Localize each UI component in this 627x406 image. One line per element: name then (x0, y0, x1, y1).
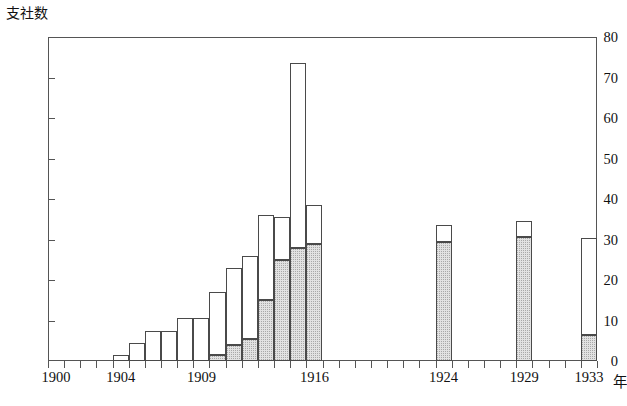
y-tick-mark (48, 321, 55, 322)
x-tick-mark (387, 361, 388, 368)
x-tick-mark (371, 361, 372, 368)
x-axis-unit-label: 年 (613, 370, 627, 391)
x-tick-mark (129, 361, 130, 368)
bar-segment-open (436, 225, 452, 241)
bar-1912 (242, 37, 258, 361)
bar-segment-shaded (290, 248, 306, 361)
bar-1916 (306, 37, 322, 361)
x-tick-mark (468, 361, 469, 368)
x-tick-mark (436, 361, 437, 368)
y-tick-mark (48, 240, 55, 241)
x-tick-mark (419, 361, 420, 368)
x-tick-mark (242, 361, 243, 368)
bar-segment-shaded (226, 345, 242, 361)
bar-segment-open (193, 318, 209, 361)
x-tick-mark (113, 361, 114, 368)
x-tick-mark (452, 361, 453, 368)
x-tick-mark (258, 361, 259, 368)
x-tick-mark (403, 361, 404, 368)
bar-segment-open (581, 238, 597, 335)
y-tick-mark (48, 280, 55, 281)
x-tick-mark (549, 361, 550, 368)
bar-1905 (129, 37, 145, 361)
bar-segment-shaded (242, 339, 258, 361)
bar-segment-open (209, 292, 225, 355)
x-tick-label: 1929 (510, 370, 539, 385)
x-tick-mark (339, 361, 340, 368)
bar-1911 (226, 37, 242, 361)
x-tick-mark (64, 361, 65, 368)
bar-1929 (516, 37, 532, 361)
x-tick-mark (145, 361, 146, 368)
bar-segment-open (306, 205, 322, 243)
x-tick-mark (177, 361, 178, 368)
bar-segment-shaded (209, 355, 225, 361)
bar-segment-shaded (274, 260, 290, 361)
x-tick-mark (80, 361, 81, 368)
bar-1933 (581, 37, 597, 361)
bar-segment-open (290, 63, 306, 247)
bar-segment-shaded (436, 242, 452, 361)
bar-segment-open (258, 215, 274, 300)
x-tick-mark (355, 361, 356, 368)
bar-1909 (193, 37, 209, 361)
bar-segment-open (177, 318, 193, 361)
bar-segment-open (226, 268, 242, 345)
x-tick-mark (532, 361, 533, 368)
x-tick-mark (48, 361, 49, 368)
bar-segment-open (161, 331, 177, 361)
x-tick-mark (484, 361, 485, 368)
x-tick-mark (581, 361, 582, 368)
x-tick-mark (226, 361, 227, 368)
x-tick-label: 1904 (106, 370, 135, 385)
bar-segment-open (274, 217, 290, 260)
x-tick-label: 1933 (574, 370, 603, 385)
x-tick-mark (597, 361, 598, 368)
bar-segment-open (242, 256, 258, 339)
y-tick-mark (48, 159, 55, 160)
x-tick-label: 1909 (187, 370, 216, 385)
bar-1913 (258, 37, 274, 361)
y-tick-mark (48, 118, 55, 119)
bar-1914 (274, 37, 290, 361)
bar-1908 (177, 37, 193, 361)
x-tick-label: 1924 (429, 370, 458, 385)
bar-segment-shaded (516, 237, 532, 361)
x-tick-label: 1916 (300, 370, 329, 385)
y-axis-title: 支社数 (6, 2, 48, 22)
y-tick-mark (48, 78, 55, 79)
x-tick-mark (323, 361, 324, 368)
x-tick-label: 1900 (42, 370, 71, 385)
bar-1906 (145, 37, 161, 361)
bar-segment-shaded (306, 244, 322, 361)
bar-1910 (209, 37, 225, 361)
bar-segment-open (145, 331, 161, 361)
bar-1924 (436, 37, 452, 361)
x-tick-mark (209, 361, 210, 368)
bar-1904 (113, 37, 129, 361)
bar-segment-shaded (581, 335, 597, 361)
bar-segment-open (129, 343, 145, 361)
x-tick-mark (161, 361, 162, 368)
x-tick-mark (306, 361, 307, 368)
x-tick-mark (274, 361, 275, 368)
bar-1915 (290, 37, 306, 361)
bar-1907 (161, 37, 177, 361)
x-tick-mark (565, 361, 566, 368)
bar-segment-open (113, 355, 129, 361)
bar-segment-open (516, 221, 532, 237)
x-tick-mark (290, 361, 291, 368)
y-tick-mark (48, 199, 55, 200)
x-tick-mark (193, 361, 194, 368)
bar-segment-shaded (258, 300, 274, 361)
x-tick-mark (96, 361, 97, 368)
x-tick-mark (516, 361, 517, 368)
x-tick-mark (500, 361, 501, 368)
